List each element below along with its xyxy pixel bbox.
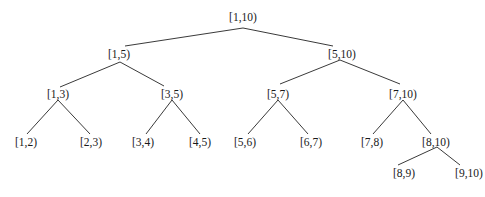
- tree-node-label: [5,7): [267, 88, 289, 101]
- tree-node-label: [1,5): [108, 48, 130, 61]
- tree-node-label: [7,8): [361, 136, 383, 149]
- tree-node-label: [8,9): [393, 167, 415, 180]
- tree-nodes: [1,10)[1,5)[5,10)[1,3)[3,5)[5,7)[7,10)[1…: [15, 11, 483, 180]
- tree-node-label: [1,2): [15, 136, 37, 149]
- tree-edge: [437, 147, 460, 165]
- tree-edge: [120, 62, 164, 86]
- tree-edge: [373, 100, 403, 134]
- tree-edge: [248, 100, 278, 134]
- tree-edge: [278, 100, 308, 134]
- tree-edge: [27, 100, 58, 134]
- tree-edge: [403, 100, 431, 134]
- tree-edge: [172, 100, 200, 134]
- tree-node-label: [5,10): [328, 48, 356, 61]
- tree-node-label: [7,10): [389, 88, 417, 101]
- tree-node-label: [3,4): [132, 136, 154, 149]
- tree-edge: [340, 60, 400, 84]
- tree-node-label: [1,10): [229, 11, 257, 24]
- tree-edge: [280, 60, 340, 84]
- tree-edge: [146, 100, 172, 134]
- tree-node-label: [1,3): [47, 88, 69, 101]
- tree-edge: [125, 28, 243, 46]
- tree-edge: [60, 62, 120, 87]
- tree-node-label: [3,5): [161, 88, 183, 101]
- tree-edge: [58, 100, 90, 134]
- tree-node-label: [6,7): [300, 136, 322, 149]
- tree-node-label: [4,5): [189, 136, 211, 149]
- tree-edge: [243, 28, 333, 46]
- segment-tree-diagram: [1,10)[1,5)[5,10)[1,3)[3,5)[5,7)[7,10)[1…: [0, 0, 485, 197]
- tree-node-label: [2,3): [80, 136, 102, 149]
- tree-node-label: [8,10): [422, 136, 450, 149]
- tree-node-label: [9,10): [455, 167, 483, 180]
- tree-node-label: [5,6): [234, 136, 256, 149]
- tree-edge: [398, 147, 437, 165]
